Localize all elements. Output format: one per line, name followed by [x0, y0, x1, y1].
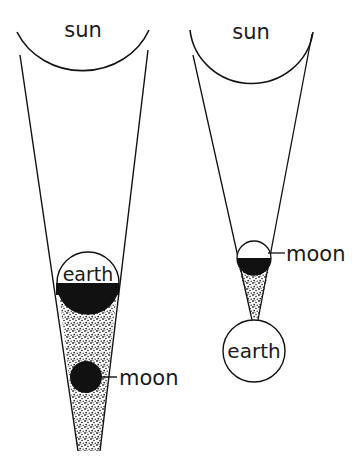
right-cone-edge-right: [258, 34, 312, 320]
right-earth-label: earth: [227, 339, 280, 363]
right-sun-label: sun: [232, 20, 270, 44]
left-moon-label: moon: [119, 366, 178, 390]
left-cone-edge-right: [100, 50, 148, 451]
right-cone-edge-left: [193, 55, 252, 320]
eclipse-diagram: sun earth moon sun moon earth: [0, 0, 356, 466]
left-sun-label: sun: [64, 18, 102, 42]
right-moon-label: moon: [286, 242, 345, 266]
right-panel-solar-eclipse: [190, 30, 313, 382]
left-earth-label: earth: [63, 263, 114, 285]
left-cone-edge-left: [20, 55, 78, 451]
left-moon-circle: [70, 361, 102, 393]
